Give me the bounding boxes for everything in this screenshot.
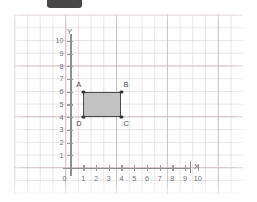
y-tick-label: 1 [47,152,64,159]
vertex-label-d: D [76,120,81,127]
x-tick [160,165,161,171]
y-axis-label: Y [67,28,72,36]
y-tick [67,117,73,118]
vertex-point-d [82,116,85,119]
x-tick [185,165,186,171]
vertex-label-b: B [123,81,128,88]
x-tick [96,165,97,171]
x-tick [83,165,84,171]
y-tick-label: 4 [47,114,64,121]
x-tick [121,165,122,171]
x-tick [198,165,199,171]
y-tick-label: 6 [47,88,64,95]
x-tick [147,165,148,171]
y-tick [67,54,73,55]
y-tick [67,66,73,67]
y-tick [67,104,73,105]
y-tick [67,130,73,131]
y-tick-label: 3 [47,126,64,133]
y-tick-label: 10 [47,37,64,44]
coordinate-plot: Y X 01234567891012345678910ABCD [0,0,257,202]
y-tick [67,41,73,42]
rectangle-abcd [83,92,121,117]
y-tick-label: 8 [47,63,64,70]
vertex-point-b [120,90,123,93]
y-tick [67,143,73,144]
y-tick [67,155,73,156]
x-tick [109,165,110,171]
vertex-label-a: A [76,81,81,88]
x-tick [134,165,135,171]
y-tick [67,92,73,93]
y-tick-label: 7 [47,75,64,82]
y-tick-label: 9 [47,50,64,57]
graph-screenshot: Y X 01234567891012345678910ABCD [0,0,257,202]
y-tick [67,79,73,80]
x-tick-label: 10 [191,175,205,182]
vertex-label-c: C [123,120,128,127]
x-tick [172,165,173,171]
x-axis-end-cap [190,162,191,173]
y-tick-label: 2 [47,139,64,146]
axis-origin-label: 0 [59,175,71,182]
y-tick-label: 5 [47,101,64,108]
